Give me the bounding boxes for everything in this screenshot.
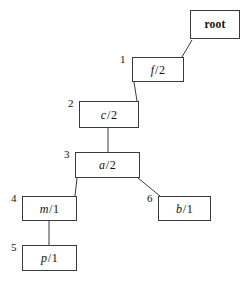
tree-diagram: rootf/21c/22a/23m/14b/16p/15 [0, 0, 249, 282]
node-c[interactable]: c/2 [79, 101, 139, 128]
node-p-label: p/1 [41, 252, 58, 264]
node-a-label: a/2 [99, 159, 116, 171]
node-m-count: 1 [53, 202, 59, 216]
node-c-label: c/2 [101, 109, 117, 121]
node-f-label: f/2 [151, 64, 165, 76]
edge-f-to-c [134, 82, 137, 101]
node-f-index: 1 [120, 54, 126, 65]
node-b-label: b/1 [176, 203, 193, 215]
edge-layer [0, 0, 249, 282]
node-b-count: 1 [187, 202, 193, 216]
edge-a-to-m [75, 178, 77, 196]
node-b[interactable]: b/1 [158, 196, 211, 221]
node-m-label: m/1 [40, 203, 60, 215]
node-a-index: 3 [64, 149, 70, 160]
node-p-count: 1 [52, 251, 58, 265]
edge-root-to-f [182, 40, 192, 57]
node-c-count: 2 [111, 108, 117, 122]
node-root-label: root [204, 19, 225, 31]
node-f[interactable]: f/2 [132, 57, 184, 82]
node-p[interactable]: p/1 [22, 245, 77, 271]
node-m-index: 4 [11, 193, 17, 204]
node-p-index: 5 [11, 242, 17, 253]
node-b-index: 6 [147, 193, 153, 204]
node-root[interactable]: root [190, 10, 240, 39]
node-f-count: 2 [159, 63, 165, 77]
node-c-index: 2 [68, 98, 74, 109]
node-a[interactable]: a/2 [75, 152, 140, 178]
node-m[interactable]: m/1 [22, 196, 77, 221]
node-a-count: 2 [110, 158, 116, 172]
node-m-symbol: m [40, 202, 49, 216]
